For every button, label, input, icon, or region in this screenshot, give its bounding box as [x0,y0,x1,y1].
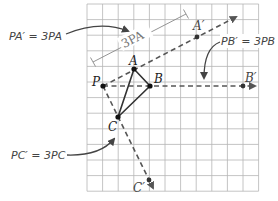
label-b: B [153,72,163,86]
label-a-prime: A′ [192,19,205,33]
ray-pc-prime [103,86,153,188]
arrow-pa-annotation [66,26,128,34]
annotation-pc: PC′ = 3PC [11,149,66,162]
point-a-prime [195,35,200,40]
ray-pa-prime [103,17,236,86]
label-c: C [108,120,117,134]
label-p: P [91,75,101,89]
point-c [115,114,120,119]
label-b-prime: B′ [244,71,257,85]
point-p [100,83,105,88]
arrow-pc-annotation [67,139,114,155]
point-b [147,83,152,88]
coordinate-grid [87,4,259,191]
annotation-pb: PB′ = 3PB [221,35,275,48]
annotation-pa: PA′ = 3PA [9,30,62,43]
label-a: A [128,54,138,68]
dilation-diagram: 3PA P A B C A′ B′ C′ PA′ = 3PA PB′ = 3PB… [0,0,278,201]
point-c-prime [147,178,152,183]
label-c-prime: C′ [133,181,145,195]
